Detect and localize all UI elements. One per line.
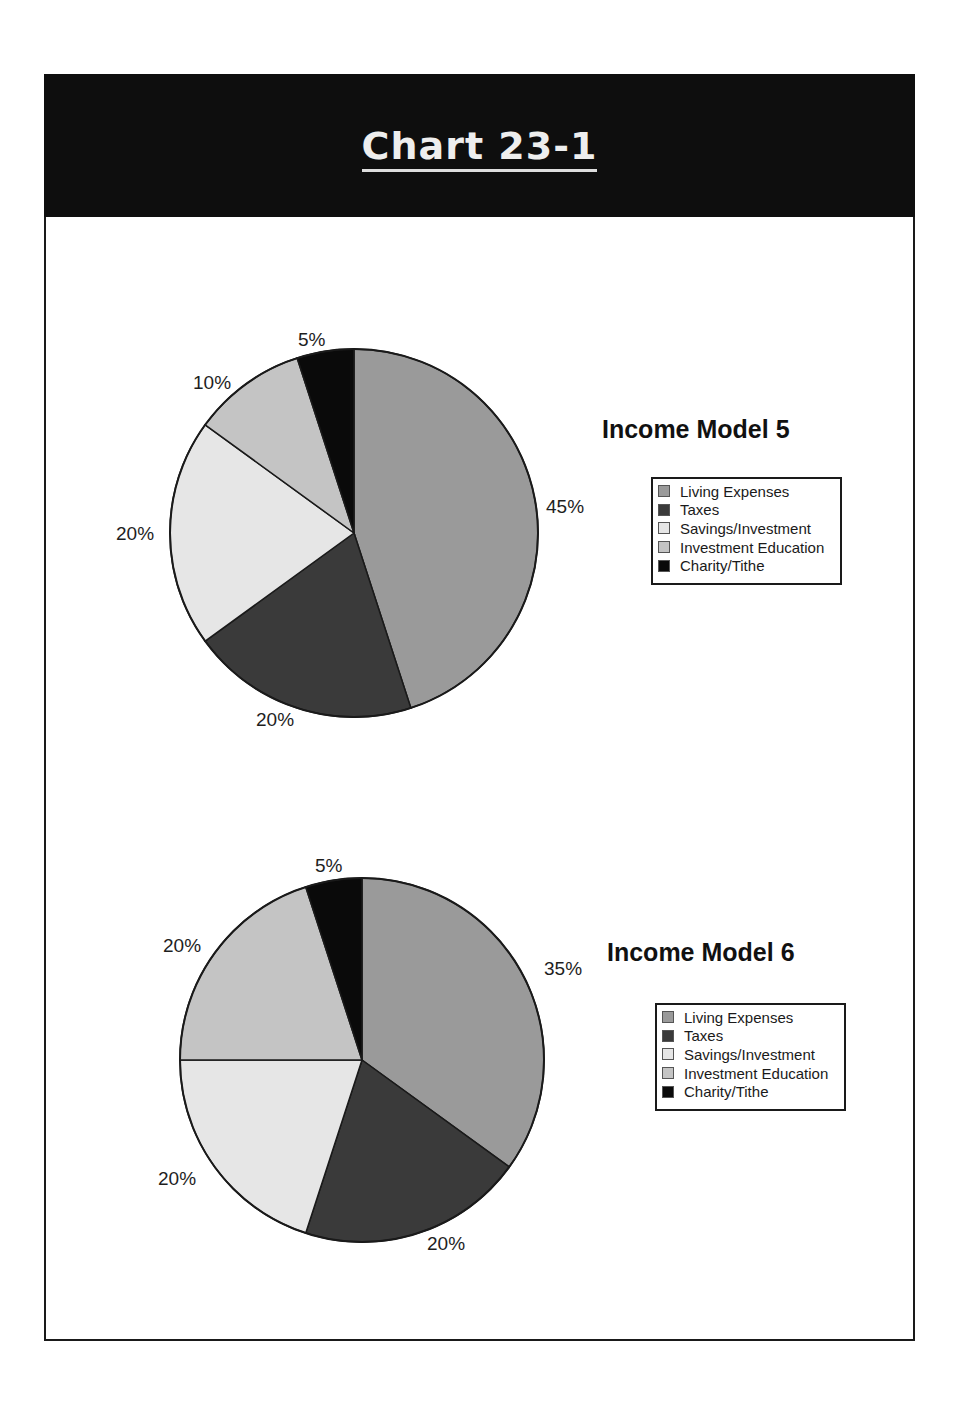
- swatch-living-expenses: [662, 1011, 674, 1023]
- slice-label-living: 35%: [544, 958, 582, 980]
- swatch-investment-education: [662, 1067, 674, 1079]
- slice-label-savings: 20%: [116, 523, 154, 545]
- chart-title-model-6: Income Model 6: [607, 938, 795, 967]
- legend-item: Living Expenses: [662, 1008, 838, 1027]
- legend-item: Investment Education: [658, 538, 834, 557]
- legend-item: Savings/Investment: [662, 1045, 838, 1064]
- slice-label-savings: 20%: [158, 1168, 196, 1190]
- legend-item: Living Expenses: [658, 482, 834, 501]
- legend-item: Charity/Tithe: [658, 556, 834, 575]
- swatch-taxes: [658, 504, 670, 516]
- legend-item: Taxes: [662, 1027, 838, 1046]
- slice-label-charity: 5%: [298, 329, 325, 351]
- slice-label-living: 45%: [546, 496, 584, 518]
- slice-label-charity: 5%: [315, 855, 342, 877]
- swatch-living-expenses: [658, 485, 670, 497]
- swatch-taxes: [662, 1030, 674, 1042]
- legend-item: Investment Education: [662, 1064, 838, 1083]
- slice-label-education: 20%: [163, 935, 201, 957]
- legend-item: Taxes: [658, 501, 834, 520]
- slice-label-taxes: 20%: [256, 709, 294, 731]
- legend-item: Charity/Tithe: [662, 1082, 838, 1101]
- swatch-savings-investment: [658, 522, 670, 534]
- chart-title-model-5: Income Model 5: [602, 415, 790, 444]
- swatch-savings-investment: [662, 1048, 674, 1060]
- slice-label-education: 10%: [193, 372, 231, 394]
- pie-charts-canvas: [0, 0, 966, 1423]
- legend-model-6: Living Expenses Taxes Savings/Investment…: [655, 1003, 846, 1111]
- swatch-charity-tithe: [658, 560, 670, 572]
- swatch-investment-education: [658, 541, 670, 553]
- swatch-charity-tithe: [662, 1086, 674, 1098]
- legend-model-5: Living Expenses Taxes Savings/Investment…: [651, 477, 842, 585]
- pie-chart-income-model-5: [170, 349, 538, 717]
- legend-item: Savings/Investment: [658, 519, 834, 538]
- slice-label-taxes: 20%: [427, 1233, 465, 1255]
- pie-chart-income-model-6: [180, 878, 544, 1242]
